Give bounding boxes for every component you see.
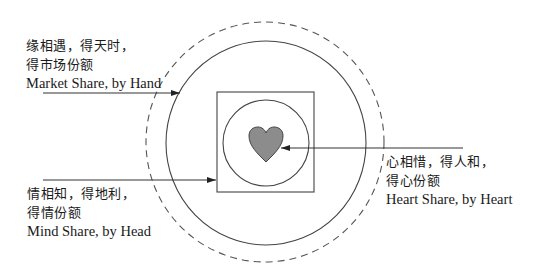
heart-share-zh-line1: 心相惜，得人和， (386, 152, 512, 171)
heart-share-en: Heart Share, by Heart (386, 190, 512, 209)
heart-share-label: 心相惜，得人和， 得心份额 Heart Share, by Heart (386, 152, 512, 209)
heart-icon (249, 127, 283, 162)
market-share-zh-line2: 得市场份额 (26, 55, 161, 74)
market-share-zh-line1: 缘相遇，得天时， (26, 36, 161, 55)
heart-share-zh-line2: 得心份额 (386, 171, 512, 190)
market-share-en: Market Share, by Hand (26, 74, 161, 93)
mind-share-en: Mind Share, by Head (27, 222, 151, 241)
mind-share-zh-line2: 得情份额 (27, 203, 151, 222)
mind-share-label: 情相知，得地利， 得情份额 Mind Share, by Head (27, 184, 151, 241)
mind-share-zh-line1: 情相知，得地利， (27, 184, 151, 203)
market-share-label: 缘相遇，得天时， 得市场份额 Market Share, by Hand (26, 36, 161, 93)
